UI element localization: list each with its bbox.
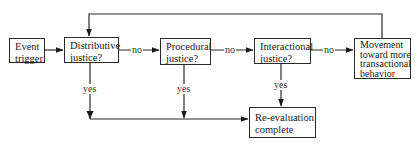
node-procedural-line2: justice? (166, 53, 207, 65)
label-yes-distributive: yes (82, 84, 97, 94)
node-event-trigger: Event trigger (9, 38, 45, 63)
node-movement-line4: behavior (360, 69, 407, 79)
node-distributive-line1: Distributive (70, 40, 115, 52)
node-reevaluation-line2: complete (255, 124, 312, 136)
label-no-distributive: no (131, 45, 143, 55)
node-distributive-line2: justice? (70, 52, 115, 64)
node-reevaluation-line1: Re-evaluation (255, 112, 312, 124)
node-event-trigger-line1: Event (15, 41, 41, 53)
node-interactional-justice: Interactional justice? (254, 38, 311, 64)
arrow-movement-feedback (89, 14, 382, 38)
node-reevaluation-complete: Re-evaluation complete (249, 107, 316, 138)
node-interactional-line1: Interactional (260, 41, 307, 53)
node-movement-transactional: Movement toward more transactional behav… (354, 38, 411, 79)
node-event-trigger-line2: trigger (15, 53, 41, 65)
node-distributive-justice: Distributive justice? (64, 37, 119, 63)
node-interactional-line2: justice? (260, 53, 307, 65)
label-no-procedural: no (224, 45, 236, 55)
label-yes-procedural: yes (176, 84, 191, 94)
label-yes-interactional: yes (273, 80, 288, 90)
arrowhead-distributive-yes (87, 111, 94, 119)
node-procedural-line1: Procedural (166, 41, 207, 53)
node-procedural-justice: Procedural justice? (160, 38, 211, 65)
label-no-interactional: no (323, 45, 335, 55)
